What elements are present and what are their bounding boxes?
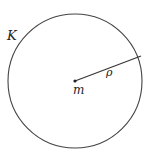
circle-diagram: K m ρ xyxy=(0,0,151,155)
radius-label: ρ xyxy=(105,66,113,79)
center-label: m xyxy=(73,83,84,97)
circle-label: K xyxy=(6,28,18,43)
